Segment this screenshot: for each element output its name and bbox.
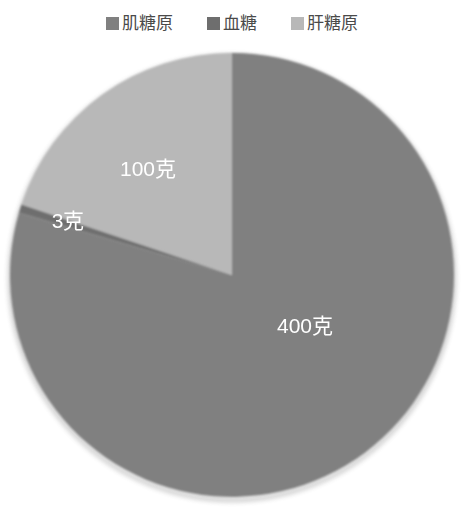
pie-plot-area: 400克 3克 100克 — [0, 38, 464, 510]
legend-item-label: 血糖 — [223, 14, 257, 33]
pie-svg: 400克 3克 100克 — [0, 38, 464, 510]
pie-chart-figure: 肌糖原 血糖 肝糖原 — [0, 0, 464, 510]
slice-value-label-xuetang: 3克 — [52, 209, 85, 232]
legend-item-gantangyuan[interactable]: 肝糖原 — [291, 14, 358, 33]
slice-value-label-jitangyuan: 400克 — [277, 314, 333, 337]
slice-value-label-gantangyuan: 100克 — [120, 157, 176, 180]
legend-item-jitangyuan[interactable]: 肌糖原 — [106, 14, 173, 33]
square-swatch-icon — [106, 17, 119, 30]
pie-slices-group — [10, 53, 454, 497]
square-swatch-icon — [207, 17, 220, 30]
legend-item-label: 肝糖原 — [307, 14, 358, 33]
legend-item-label: 肌糖原 — [122, 14, 173, 33]
square-swatch-icon — [291, 17, 304, 30]
chart-legend: 肌糖原 血糖 肝糖原 — [0, 8, 464, 38]
legend-item-xuetang[interactable]: 血糖 — [207, 14, 257, 33]
